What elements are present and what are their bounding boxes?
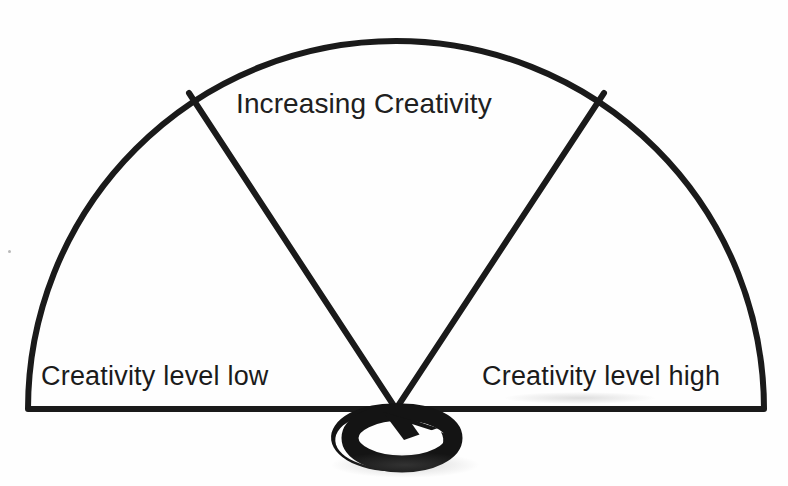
semicircle-gauge-graphic bbox=[0, 0, 788, 486]
label-creativity-level-high: Creativity level high bbox=[482, 361, 720, 392]
scan-smudge-right bbox=[505, 392, 655, 404]
diagram-canvas: Increasing Creativity Creativity level l… bbox=[0, 0, 788, 486]
label-creativity-level-low: Creativity level low bbox=[41, 361, 269, 392]
scan-smudge-bottom bbox=[330, 452, 480, 478]
label-increasing-creativity: Increasing Creativity bbox=[236, 88, 492, 120]
scan-speck bbox=[8, 250, 11, 253]
